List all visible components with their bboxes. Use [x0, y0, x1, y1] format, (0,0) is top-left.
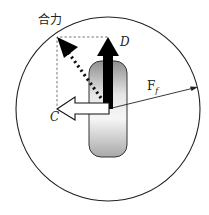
d-arrow-shaft — [103, 55, 113, 109]
d-force-label: D — [120, 36, 130, 48]
friction-circle-diagram — [0, 0, 209, 215]
friction-force-label: Ff — [147, 80, 158, 95]
d-arrow-head — [97, 37, 119, 56]
resultant-arrow-head — [57, 37, 78, 58]
c-force-label: C — [50, 111, 59, 123]
friction-radius-arrowhead — [190, 87, 198, 92]
resultant-force-label: 合力 — [38, 14, 62, 26]
friction-label-subscript: f — [155, 86, 158, 95]
